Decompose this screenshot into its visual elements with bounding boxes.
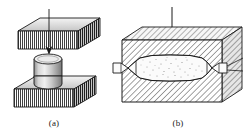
- panel-a-caption: (a): [49, 118, 60, 128]
- technical-figure: (a): [0, 0, 251, 134]
- figure-svg: (a): [0, 0, 251, 134]
- barrel-cavity: [128, 55, 212, 81]
- cylinder-base-overlap: [34, 76, 62, 89]
- upper-block-front-face: [18, 31, 78, 49]
- block-b-top-face: [122, 27, 242, 40]
- lower-block-front-face: [14, 89, 74, 107]
- panel-b-caption: (b): [172, 118, 183, 128]
